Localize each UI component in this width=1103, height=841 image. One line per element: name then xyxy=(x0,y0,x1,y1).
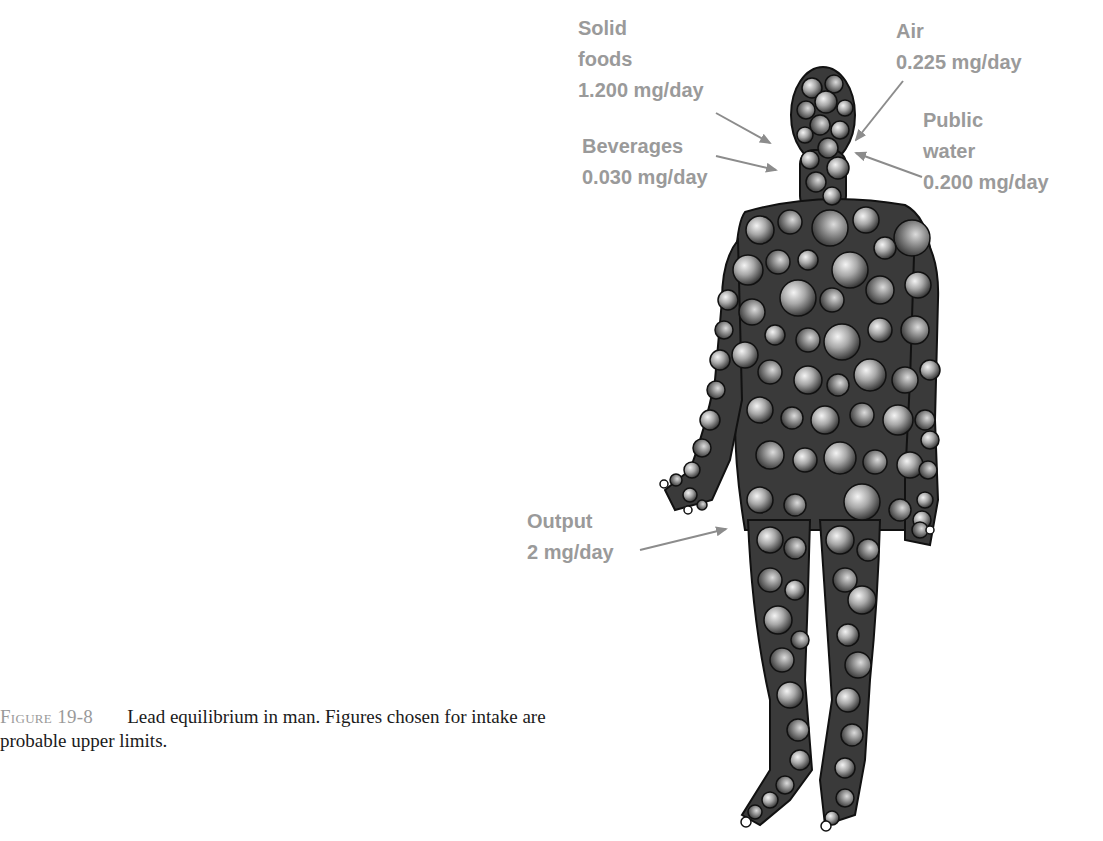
arrow-public-water xyxy=(856,153,922,177)
solid-foods-value: 1.200 mg/day xyxy=(578,75,704,106)
figure-number: Figure 19-8 xyxy=(0,706,93,727)
air-name: Air xyxy=(896,16,1022,47)
arrow-air xyxy=(856,81,903,140)
public-water-name-line1: Public xyxy=(923,105,1049,136)
arrow-solid-foods xyxy=(716,113,770,143)
label-beverages: Beverages 0.030 mg/day xyxy=(582,131,708,193)
label-air: Air 0.225 mg/day xyxy=(896,16,1022,78)
label-output: Output 2 mg/day xyxy=(527,506,614,568)
public-water-name-line2: water xyxy=(923,136,1049,167)
label-public-water: Public water 0.200 mg/day xyxy=(923,105,1049,198)
solid-foods-name-line1: Solid xyxy=(578,13,704,44)
output-name: Output xyxy=(527,506,614,537)
air-value: 0.225 mg/day xyxy=(896,47,1022,78)
solid-foods-name-line2: foods xyxy=(578,44,704,75)
beverages-name: Beverages xyxy=(582,131,708,162)
output-value: 2 mg/day xyxy=(527,537,614,568)
figure-caption: Figure 19-8Lead equilibrium in man. Figu… xyxy=(0,705,560,753)
beverages-value: 0.030 mg/day xyxy=(582,162,708,193)
arrow-output xyxy=(640,529,726,550)
arrow-beverages xyxy=(716,156,776,170)
label-solid-foods: Solid foods 1.200 mg/day xyxy=(578,13,704,106)
public-water-value: 0.200 mg/day xyxy=(923,167,1049,198)
